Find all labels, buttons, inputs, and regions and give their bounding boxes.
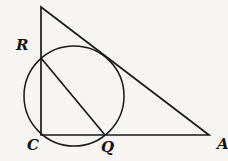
geometry-figure: R C Q A	[0, 0, 228, 161]
circle	[24, 46, 124, 146]
label-C: C	[27, 137, 39, 153]
label-Q: Q	[101, 139, 114, 155]
label-R: R	[16, 37, 28, 53]
label-A: A	[217, 136, 228, 152]
triangle-outline	[41, 7, 209, 135]
chord-RQ	[41, 58, 105, 135]
